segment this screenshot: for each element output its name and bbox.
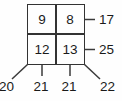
cell-r1-c0: 12 [34, 42, 49, 57]
cell-r0-c0: 9 [38, 12, 46, 27]
row-sum-label-1: 25 [99, 42, 114, 57]
figure-canvas: 9 8 12 13 17 25 21 21 20 22 [0, 0, 122, 101]
anti-diagonal-sum-label: 20 [0, 79, 14, 94]
cell-r1-c1: 13 [62, 42, 77, 57]
matrix-sum-figure: 9 8 12 13 17 25 21 21 20 22 [0, 0, 122, 101]
main-diagonal-sum-label: 22 [100, 79, 115, 94]
row-sum-label-0: 17 [99, 12, 114, 27]
column-sum-label-0: 21 [33, 79, 48, 94]
column-sum-label-1: 21 [61, 79, 76, 94]
anti-diagonal-line [12, 65, 28, 80]
main-diagonal-line [85, 65, 101, 80]
cell-r0-c1: 8 [66, 12, 74, 27]
